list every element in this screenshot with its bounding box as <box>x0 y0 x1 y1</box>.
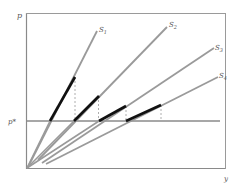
curve-label-s2: S2 <box>169 21 177 30</box>
highlight-segment-s4 <box>126 105 161 121</box>
supply-diagram: p y p* S1 S2 S3 S4 <box>0 0 244 185</box>
highlight-segment-s3 <box>99 106 126 121</box>
curve-label-s3: S3 <box>215 44 223 53</box>
curve-label-s1: S1 <box>99 26 107 35</box>
highlight-segment-s1 <box>50 77 75 121</box>
y-axis-label: p <box>17 11 22 20</box>
supply-curve-s3 <box>42 48 214 163</box>
price-level-label: p* <box>8 118 16 126</box>
supply-curve-s2 <box>38 27 167 160</box>
highlight-segment-s2 <box>74 96 99 121</box>
x-axis-label: y <box>223 175 229 183</box>
